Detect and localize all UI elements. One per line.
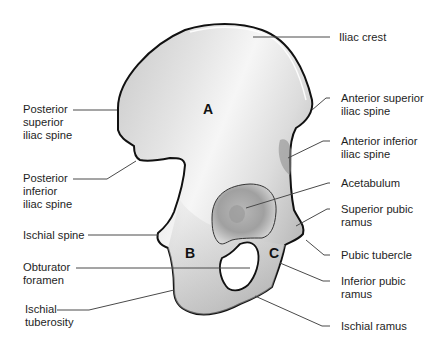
label-posterior-inferior-iliac-spine: Posterior inferior iliac spine — [23, 172, 72, 211]
label-inferior-pubic-ramus: Inferior pubic ramus — [341, 275, 406, 301]
region-label-b: B — [185, 245, 195, 261]
label-anterior-superior-iliac-spine: Anterior superior iliac spine — [341, 92, 424, 118]
label-iliac-crest: Iliac crest — [339, 31, 386, 44]
hip-bone-diagram: A B C Posterior superior iliac spine Pos… — [0, 0, 442, 350]
label-ischial-tuberosity: Ischial tuberosity — [25, 303, 74, 329]
label-obturator-foramen: Obturator foramen — [23, 261, 70, 287]
region-label-c: C — [269, 245, 279, 261]
label-ischial-ramus: Ischial ramus — [341, 320, 407, 333]
region-label-a: A — [203, 101, 213, 117]
label-anterior-inferior-iliac-spine: Anterior inferior iliac spine — [341, 135, 417, 161]
label-acetabulum: Acetabulum — [341, 177, 400, 190]
label-pubic-tubercle: Pubic tubercle — [341, 249, 412, 262]
label-superior-pubic-ramus: Superior pubic ramus — [341, 203, 413, 229]
label-ischial-spine: Ischial spine — [23, 229, 85, 242]
label-posterior-superior-iliac-spine: Posterior superior iliac spine — [23, 103, 72, 142]
